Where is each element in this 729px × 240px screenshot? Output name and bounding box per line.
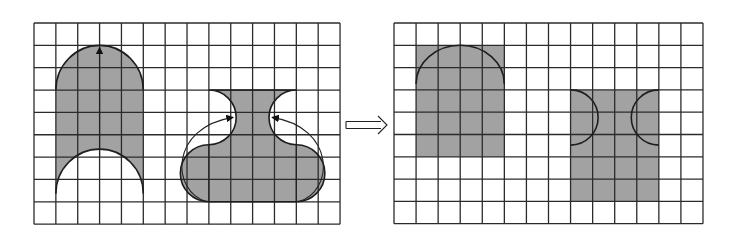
diagram-canvas bbox=[0, 0, 729, 240]
right-shapes bbox=[416, 45, 659, 201]
left-panel bbox=[34, 23, 340, 224]
transform-arrow-icon bbox=[346, 116, 387, 134]
right-panel bbox=[394, 23, 703, 224]
figure bbox=[0, 0, 729, 240]
left-shapes bbox=[56, 45, 325, 201]
